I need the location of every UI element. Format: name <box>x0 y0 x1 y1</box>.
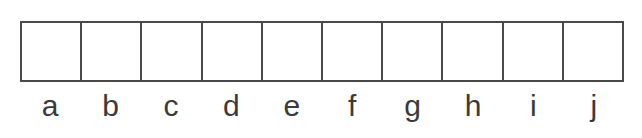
label-row: a b c d e f g h i j <box>20 86 624 126</box>
box-i <box>504 23 564 80</box>
box-label: i <box>503 86 563 126</box>
box-label: g <box>382 86 442 126</box>
box-a <box>22 23 82 80</box>
box-e <box>263 23 323 80</box>
box-label: j <box>564 86 624 126</box>
box-row <box>20 21 624 82</box>
box-d <box>203 23 263 80</box>
box-label: d <box>201 86 261 126</box>
box-g <box>383 23 443 80</box>
box-c <box>142 23 202 80</box>
box-label: a <box>20 86 80 126</box>
box-h <box>443 23 503 80</box>
box-label: b <box>80 86 140 126</box>
box-j <box>564 23 622 80</box>
box-label: c <box>141 86 201 126</box>
box-b <box>82 23 142 80</box>
box-f <box>323 23 383 80</box>
box-label: f <box>322 86 382 126</box>
box-label: e <box>262 86 322 126</box>
box-label: h <box>443 86 503 126</box>
